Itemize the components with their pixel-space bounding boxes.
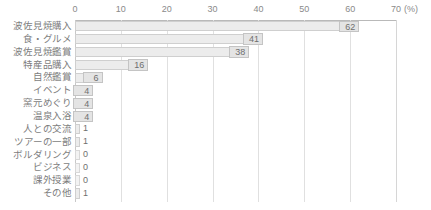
- bar-value-label: 62: [339, 21, 359, 32]
- bar-value-label: 16: [128, 59, 148, 70]
- x-tick-label-70: 70: [391, 4, 401, 14]
- bar-value-label: 4: [73, 98, 93, 109]
- bar-row: 温泉入浴4: [0, 110, 431, 123]
- bar-row: ツアーの一部1: [0, 136, 431, 149]
- bar-row: イベント4: [0, 84, 431, 97]
- bar-value-label: 1: [81, 136, 91, 147]
- bar: [75, 47, 249, 57]
- category-label: イベント: [0, 84, 72, 97]
- bar: [75, 150, 80, 160]
- bar-value-label: 0: [81, 149, 91, 160]
- bar-row: 波佐見焼鑑賞38: [0, 46, 431, 59]
- bar: [75, 188, 80, 198]
- bar-value-label: 1: [81, 188, 91, 199]
- category-label: ツアーの一部: [0, 136, 72, 149]
- category-label: 窯元めぐり: [0, 97, 72, 110]
- x-tick-label-30: 30: [208, 4, 218, 14]
- bar: [75, 21, 359, 31]
- bar-value-label: 38: [229, 46, 249, 57]
- bar-value-label: 41: [243, 33, 263, 44]
- bar: [75, 175, 80, 185]
- category-label: 自然鑑賞: [0, 71, 72, 84]
- bar-row: ボルダリング0: [0, 149, 431, 162]
- bar-row: ビジネス0: [0, 161, 431, 174]
- bar-row: その他1: [0, 187, 431, 200]
- category-label: 人との交流: [0, 123, 72, 136]
- x-tick-label-0: 0: [72, 4, 77, 14]
- x-tick-label-40: 40: [253, 4, 263, 14]
- category-label: 温泉入浴: [0, 110, 72, 123]
- bar: [75, 34, 263, 44]
- bar-value-label: 4: [73, 111, 93, 122]
- category-label: 課外授業: [0, 174, 72, 187]
- category-label: 波佐見焼鑑賞: [0, 46, 72, 59]
- category-label: その他: [0, 187, 72, 200]
- horizontal-bar-chart: 010203040506070(%) 波佐見焼購入62食・グルメ41波佐見焼鑑賞…: [0, 0, 431, 210]
- bar-value-label: 4: [73, 85, 93, 96]
- bar-row: 窯元めぐり4: [0, 97, 431, 110]
- category-label: ボルダリング: [0, 149, 72, 162]
- bar-value-label: 6: [83, 72, 103, 83]
- bar: [75, 163, 80, 173]
- x-axis-unit-label: (%): [404, 4, 418, 14]
- x-tick-label-60: 60: [345, 4, 355, 14]
- category-label: 食・グルメ: [0, 33, 72, 46]
- bar-row: 特産品購入16: [0, 59, 431, 72]
- bar: [75, 137, 80, 147]
- bar-value-label: 1: [81, 123, 91, 134]
- x-tick-label-50: 50: [299, 4, 309, 14]
- bar-row: 課外授業0: [0, 174, 431, 187]
- category-label: 特産品購入: [0, 59, 72, 72]
- category-label: ビジネス: [0, 161, 72, 174]
- x-tick-label-20: 20: [162, 4, 172, 14]
- bar-row: 食・グルメ41: [0, 33, 431, 46]
- bar-value-label: 0: [81, 162, 91, 173]
- bar-row: 波佐見焼購入62: [0, 20, 431, 33]
- bar: [75, 124, 80, 134]
- bar-value-label: 0: [81, 175, 91, 186]
- bar-row: 自然鑑賞6: [0, 71, 431, 84]
- bar-row: 人との交流1: [0, 123, 431, 136]
- category-label: 波佐見焼購入: [0, 20, 72, 33]
- x-tick-label-10: 10: [116, 4, 126, 14]
